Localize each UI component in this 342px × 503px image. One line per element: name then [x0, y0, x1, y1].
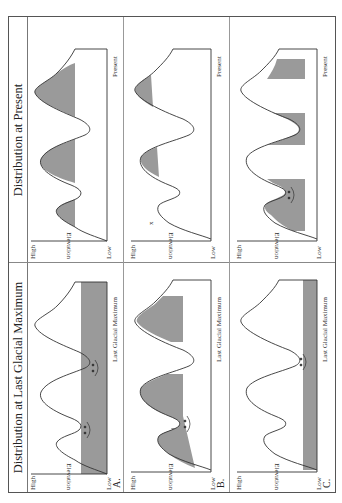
panel-a-present: High Elevation Low Present	[27, 17, 123, 263]
mountain-profile-a-lgm	[27, 263, 123, 492]
extinct-x-icon: x	[147, 221, 155, 225]
panel-a-lgm: High Elevation Low Last Glacial Maximum …	[27, 263, 123, 492]
mountain-profile-b-present: x	[123, 17, 229, 263]
row-label-a: A.	[111, 478, 122, 488]
axis-ylabel: Elevation	[167, 463, 175, 490]
axis-xlabel-present: Present	[111, 56, 119, 77]
row-label-b: B.	[215, 479, 226, 488]
panel-b-present: x High Elevation Low Present	[123, 17, 229, 263]
diagram-frame: Distribution at Last Glacial Maximum Dis…	[8, 16, 336, 493]
axis-ylabel: Elevation	[65, 232, 73, 259]
axis-xlabel-lgm: Last Glacial Maximum	[215, 297, 223, 362]
axis-high: High	[129, 476, 137, 490]
diagram-stage: Distribution at Last Glacial Maximum Dis…	[0, 0, 342, 503]
mountain-profile-c-lgm	[229, 263, 335, 492]
axis-ylabel: Elevation	[167, 232, 175, 259]
panel-b-lgm: High Elevation Low Last Glacial Maximum …	[123, 263, 229, 492]
axis-ylabel: Elevation	[65, 463, 73, 490]
axis-low: Low	[315, 246, 323, 259]
axis-high: High	[129, 245, 137, 259]
panel-c-present: High Elevation Low Present	[229, 17, 335, 263]
axis-ylabel: Elevation	[273, 463, 281, 490]
axis-xlabel-present: Present	[215, 56, 223, 77]
axis-xlabel-lgm: Last Glacial Maximum	[111, 297, 119, 362]
axis-xlabel-lgm: Last Glacial Maximum	[321, 297, 329, 362]
panel-c-lgm: High Elevation Low Last Glacial Maximum …	[229, 263, 335, 492]
axis-high: High	[29, 245, 37, 259]
header-lgm: Distribution at Last Glacial Maximum	[9, 263, 28, 492]
mountain-profile-c-present	[229, 17, 335, 263]
axis-low: Low	[105, 246, 113, 259]
axis-low: Low	[209, 246, 217, 259]
row-label-c: C.	[321, 479, 332, 488]
header-present: Distribution at Present	[9, 17, 28, 263]
axis-high: High	[235, 245, 243, 259]
axis-high: High	[29, 476, 37, 490]
mountain-profile-a-present	[27, 17, 123, 263]
mountain-profile-b-lgm	[123, 263, 229, 492]
axis-ylabel: Elevation	[273, 232, 281, 259]
axis-high: High	[235, 476, 243, 490]
axis-xlabel-present: Present	[321, 56, 329, 77]
